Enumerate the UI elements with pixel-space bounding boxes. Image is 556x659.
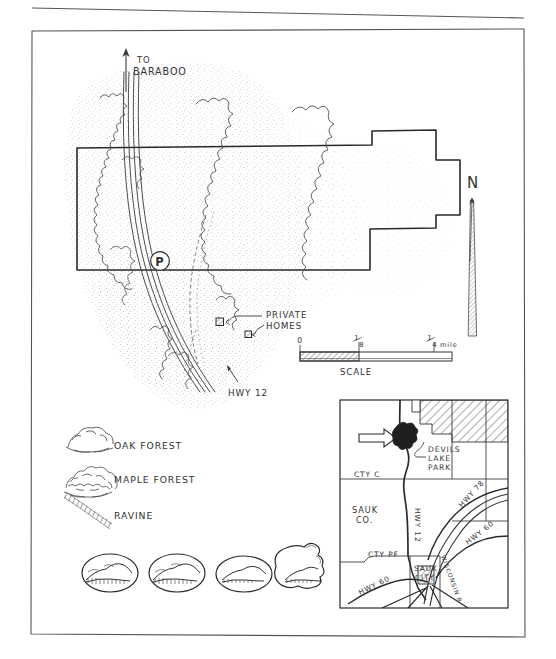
parking-symbol[interactable]: P: [151, 252, 170, 271]
inset-label-sauk-city-line2: CITY: [415, 573, 435, 582]
inset-label-sauk-city-line1: SAUK: [414, 564, 438, 573]
inset-label-devils-lake-park-line2: LAKE: [428, 454, 451, 463]
inset-label-sauk-co-line2: CO.: [356, 515, 373, 525]
scale-tick-zero: 0: [297, 336, 303, 345]
scale-tick-quarter-unit: mile: [440, 341, 458, 349]
inset-label-cty-pf: CTY PF: [368, 550, 399, 559]
private-homes-label-line2: HOMES: [266, 321, 302, 331]
inset-map: DEVILS LAKE PARK CTY C SAUK CO. HWY 12 H…: [340, 400, 508, 608]
scale-tick-eighth: 1 8: [354, 334, 365, 349]
map-page: TO BARABOO P: [0, 0, 556, 659]
north-arrow: N: [467, 174, 479, 336]
north-arrow-label: N: [467, 174, 479, 192]
inset-label-hwy-12: HWY 12: [413, 508, 422, 543]
legend-label-oak-forest: OAK FOREST: [114, 440, 182, 451]
to-baraboo-label-line2: BARABOO: [133, 66, 187, 77]
legend-label-maple-forest: MAPLE FOREST: [114, 474, 195, 485]
scale-tick-quarter-denominator: 4: [432, 341, 437, 349]
maple-forest-symbol: [64, 467, 117, 498]
private-home-marker-1: [216, 318, 224, 326]
private-homes-label-line1: PRIVATE: [266, 310, 307, 320]
inset-label-cty-c: CTY C: [354, 470, 380, 479]
legend-item-ravine: RAVINE: [64, 492, 153, 529]
oak-forest-symbol: [66, 427, 113, 452]
private-home-marker-2: [245, 331, 252, 338]
ravine-symbol: [64, 492, 112, 529]
top-rule: [32, 8, 524, 18]
to-baraboo-label-line1: TO: [136, 55, 151, 65]
legend-item-oak-forest: OAK FOREST: [66, 427, 182, 452]
inset-label-devils-lake-park-line3: PARK: [428, 463, 451, 472]
landscape-vignette-2: [149, 554, 205, 592]
legend-label-ravine: RAVINE: [114, 510, 153, 521]
map-canvas: TO BARABOO P: [0, 0, 556, 659]
inset-label-sauk-co-line1: SAUK: [352, 505, 378, 515]
parking-symbol-letter: P: [155, 255, 164, 269]
hwy-12-label: HWY 12: [228, 388, 268, 398]
scale-bar: [300, 342, 452, 361]
scale-tick-eighth-denominator: 8: [359, 341, 364, 349]
landscape-vignette-4: [275, 543, 324, 588]
inset-label-devils-lake-park-line1: DEVILS: [428, 445, 461, 454]
scale-tick-quarter: 1 4 mile: [427, 334, 458, 349]
scale-bar-title: SCALE: [340, 367, 372, 377]
legend-item-maple-forest: MAPLE FOREST: [64, 467, 195, 498]
landscape-vignette-1: [82, 554, 138, 592]
landscape-vignette-3: [216, 556, 272, 592]
